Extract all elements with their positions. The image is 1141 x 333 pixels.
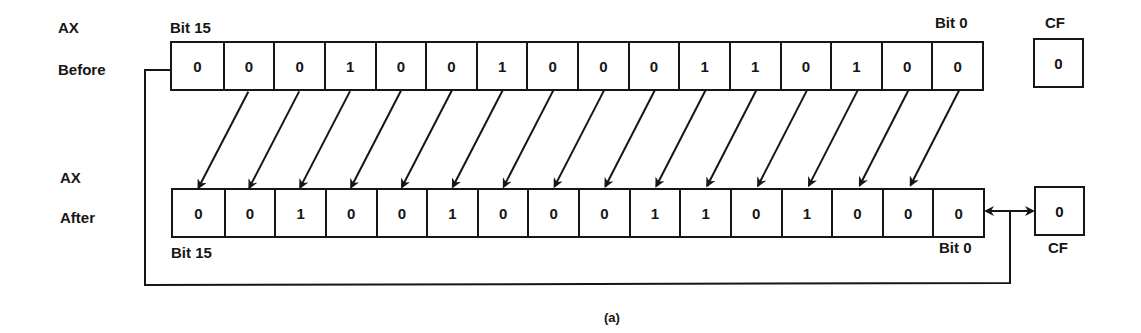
after-bit-14: 0 (224, 190, 275, 236)
before-bit-6: 0 (628, 43, 679, 89)
before-bit-2: 1 (830, 43, 881, 89)
before-bit-9: 1 (476, 43, 527, 89)
before-bit-8: 0 (526, 43, 577, 89)
shift-arrow (911, 88, 961, 186)
after-bit-4: 0 (730, 190, 781, 236)
after-bit-3: 1 (781, 190, 832, 236)
before-bit-7: 0 (577, 43, 628, 89)
after-cf-box: 0 (1034, 186, 1085, 236)
shift-arrow (555, 90, 605, 187)
before-bit-11: 0 (375, 43, 426, 89)
shift-arrow (351, 91, 401, 187)
shift-arrow (504, 90, 554, 187)
after-register-bits: 0010010001101000 (171, 188, 985, 238)
after-bit-8: 0 (527, 190, 578, 236)
shift-arrow (198, 92, 248, 188)
shift-arrow (402, 91, 452, 188)
after-bit-9: 0 (477, 190, 528, 236)
after-bit-6: 1 (629, 190, 680, 236)
shift-arrow (249, 91, 299, 187)
shift-arrow (809, 88, 859, 185)
before-bit-0: 0 (931, 43, 982, 89)
after-bit-13: 1 (274, 190, 325, 236)
before-bit-14: 0 (223, 43, 274, 89)
before-register-bits: 0001001000110100 (170, 41, 984, 91)
shift-arrows (198, 88, 960, 188)
after-bit-1: 0 (882, 190, 933, 236)
shift-arrow (860, 88, 910, 185)
before-bit-10: 0 (425, 43, 476, 89)
after-bit-15: 0 (173, 190, 224, 236)
after-bit-5: 1 (679, 190, 730, 236)
after-bit-11: 0 (376, 190, 427, 236)
before-bit-13: 0 (273, 43, 324, 89)
shift-arrow (758, 88, 808, 185)
after-bit-10: 1 (426, 190, 477, 236)
before-bit-1: 0 (881, 43, 932, 89)
shift-arrow (300, 91, 350, 187)
before-bit-5: 1 (678, 43, 729, 89)
after-bit-0: 0 (932, 190, 983, 236)
figure-caption: (a) (604, 310, 620, 325)
after-bit-2: 0 (831, 190, 882, 236)
after-bit-12: 0 (325, 190, 376, 236)
shift-arrow (453, 90, 503, 187)
shift-arrow (707, 89, 757, 186)
shift-arrow (605, 89, 655, 186)
rotate-loop-line (145, 70, 1010, 285)
before-bit-3: 0 (780, 43, 831, 89)
before-bit-12: 1 (324, 43, 375, 89)
before-cf-box: 0 (1033, 38, 1084, 88)
shift-arrow (656, 89, 706, 186)
before-bit-4: 1 (729, 43, 780, 89)
after-bit-7: 0 (578, 190, 629, 236)
before-bit-15: 0 (172, 43, 223, 89)
